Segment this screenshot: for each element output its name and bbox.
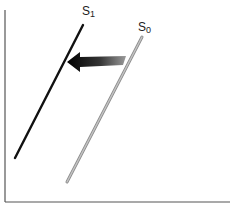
label-s1: S1 — [82, 5, 95, 19]
left-shift-arrow-icon — [67, 52, 126, 72]
supply-shift-diagram — [0, 0, 236, 207]
supply-curve-s1 — [15, 25, 83, 158]
label-s0: S0 — [138, 21, 151, 35]
